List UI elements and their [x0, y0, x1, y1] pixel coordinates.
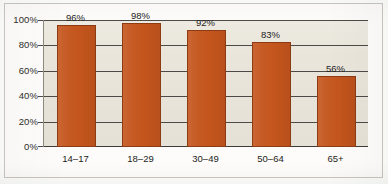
y-tick-mark	[38, 20, 43, 21]
y-tick-mark	[38, 122, 43, 123]
y-tick-mark	[38, 146, 43, 147]
bar-value-label: 92%	[196, 18, 215, 28]
bar	[252, 42, 291, 147]
y-tick-label: 40%	[2, 91, 38, 101]
plot-area	[43, 20, 368, 147]
bar-value-label: 96%	[66, 13, 85, 23]
y-tick-label: 60%	[2, 66, 38, 76]
bar	[317, 76, 356, 147]
y-tick-label: 20%	[2, 117, 38, 127]
bar-value-label: 98%	[131, 10, 150, 20]
y-tick-mark	[38, 96, 43, 97]
bar	[187, 30, 226, 147]
y-tick-label: 0%	[2, 142, 38, 152]
bar-value-label: 83%	[261, 29, 280, 39]
bar	[57, 25, 96, 147]
y-tick-mark	[38, 71, 43, 72]
bar	[122, 23, 161, 147]
bar-chart-screenshot: 100%80%60%40%20%0% 96%98%92%83%56% 14–17…	[0, 0, 388, 184]
y-tick-label: 80%	[2, 41, 38, 51]
y-tick-mark	[38, 45, 43, 46]
y-axis-labels: 100%80%60%40%20%0%	[0, 0, 38, 184]
bar-value-label: 56%	[326, 63, 345, 73]
y-tick-label: 100%	[2, 15, 38, 25]
